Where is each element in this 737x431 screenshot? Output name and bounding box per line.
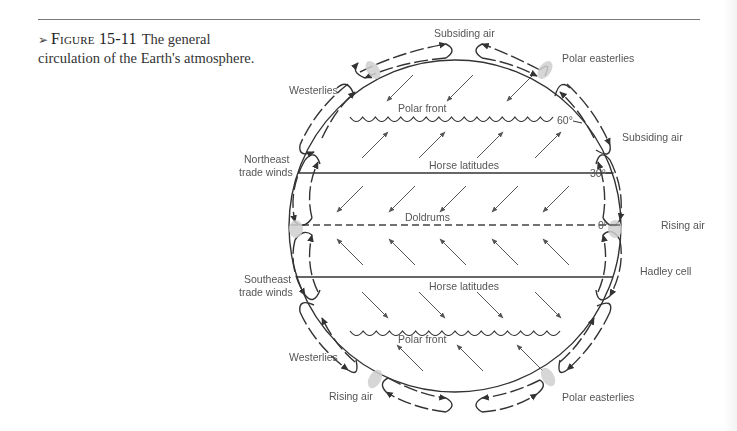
- ferrel-cell-south-right-outer: [567, 312, 610, 370]
- southeast-trade-winds-label-1: Southeast: [244, 273, 291, 285]
- westerlies-bottom-label: Westerlies: [289, 351, 338, 363]
- wind-arrow-northwest: [457, 345, 483, 371]
- ferrel-cell-south-right-bottom-loop: [559, 360, 567, 372]
- southeast-trade-winds-label-2: trade winds: [239, 286, 293, 298]
- horse-latitudes-south-label: Horse latitudes: [429, 280, 499, 292]
- polar-cell-north-right: [482, 44, 540, 70]
- wind-arrow-northwest: [397, 345, 423, 371]
- hadley-cell-north-right-outer: [610, 160, 621, 220]
- wind-arrow-southeast: [419, 292, 445, 318]
- ferrel-cell-north-left-inner: [322, 92, 355, 138]
- polar-easterlies-bottom-label: Polar easterlies: [562, 391, 634, 403]
- wind-arrow-southwest: [389, 186, 415, 212]
- polar-front-south-line: [350, 331, 560, 336]
- wind-arrow-northeast: [419, 132, 445, 158]
- wind-arrow-southeast: [477, 292, 503, 318]
- subsiding-air-right-label: Subsiding air: [622, 131, 683, 143]
- polar-cell-north-left-loop: [446, 44, 452, 58]
- polar-front-north-label: Polar front: [398, 102, 447, 114]
- polar-cell-south-right-return: [482, 394, 537, 412]
- inner-labels: Polar front Horse latitudes Doldrums Hor…: [398, 102, 499, 345]
- wind-arrow-northeast: [362, 132, 388, 158]
- ferrel-cell-north-right-loop: [596, 145, 610, 154]
- polar-cell-south-left-return: [386, 392, 446, 412]
- doldrums-label: Doldrums: [405, 211, 450, 223]
- wind-arrow-southwest: [492, 186, 518, 212]
- cloud-icon: [534, 58, 555, 81]
- wind-arrow-northwest: [543, 239, 569, 265]
- wind-arrow-northwest: [337, 239, 363, 265]
- polar-cell-north-right-return: [482, 58, 537, 76]
- rising-air-right-label: Rising air: [661, 219, 705, 231]
- wind-arrow-southeast: [362, 292, 388, 318]
- outer-labels: Subsiding air Polar easterlies Westerlie…: [239, 27, 705, 403]
- subsiding-air-top-label: Subsiding air: [434, 27, 495, 39]
- horse-latitudes-north-label: Horse latitudes: [429, 159, 499, 171]
- wind-arrow-southwest: [387, 75, 413, 101]
- polar-cell-south-right-loop: [476, 398, 482, 412]
- cloud-icon: [608, 220, 622, 238]
- northeast-trade-winds-label-2: trade winds: [239, 166, 293, 178]
- cloud-icon: [365, 367, 385, 390]
- wind-arrow-southwest: [337, 186, 363, 212]
- wind-arrow-northwest: [492, 239, 518, 265]
- wind-arrow-southwest: [447, 75, 473, 101]
- circulation-cells: [293, 44, 621, 412]
- lat-60-label: 60°: [557, 114, 573, 126]
- polar-easterlies-top-label: Polar easterlies: [562, 52, 634, 64]
- ferrel-cell-south-left-bottom-loop: [348, 360, 357, 372]
- polar-cell-south-left-loop2: [382, 378, 388, 392]
- hadley-cell-label: Hadley cell: [640, 265, 691, 277]
- wind-arrow-southwest: [440, 186, 466, 212]
- hadley-cell-south-right-inner: [598, 235, 606, 292]
- wind-arrow-northwest: [517, 345, 543, 371]
- wind-arrow-northwest: [440, 239, 466, 265]
- lat-0-label: 0°: [598, 219, 608, 231]
- ferrel-cell-north-right-outer: [567, 84, 610, 145]
- northeast-trade-winds-label-1: Northeast: [244, 153, 290, 165]
- atmospheric-circulation-diagram: 60° 30° 0° Polar front Horse latitudes D…: [0, 0, 737, 431]
- wind-arrow-southwest: [507, 75, 533, 101]
- polar-cell-south-left-loop: [446, 398, 452, 412]
- westerlies-top-label: Westerlies: [289, 84, 338, 96]
- polar-front-north-line: [350, 117, 553, 122]
- earth-outline: [289, 60, 621, 392]
- wind-arrow-southwest: [543, 186, 569, 212]
- wind-arrow-northwest: [389, 239, 415, 265]
- cloud-icon: [289, 220, 303, 238]
- lat-30-label: 30°: [590, 167, 606, 179]
- lat-60-tick: [573, 121, 582, 123]
- hadley-cell-north-left-inner: [310, 162, 318, 218]
- polar-front-south-label: Polar front: [398, 333, 447, 345]
- wind-arrow-northeast: [535, 132, 561, 158]
- rising-air-bottom-label: Rising air: [329, 390, 373, 402]
- hadley-cell-south-left-inner: [310, 235, 318, 292]
- wind-arrow-northeast: [477, 132, 503, 158]
- polar-cell-south-right-loop2: [537, 380, 543, 394]
- wind-arrow-southeast: [535, 292, 561, 318]
- polar-cell-north-right-loop: [476, 44, 482, 58]
